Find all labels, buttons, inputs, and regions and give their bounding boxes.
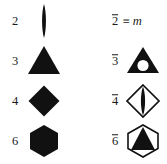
- axis-label-6: 6: [12, 134, 18, 147]
- symbol-cell-rotoinversion-4: 4: [100, 80, 167, 121]
- axis-label-4: 4: [12, 94, 18, 107]
- lens-two-fold-axis-symbol: [26, 3, 62, 39]
- open-circle-inversion-center: [137, 59, 148, 70]
- symbol-cell-rotoinversion-6: 6: [100, 120, 167, 161]
- symbol-cell-rotation-4: 4: [0, 80, 84, 121]
- axis-label-4-bar: 4: [112, 94, 118, 108]
- symbol-row: 2 2≡m: [0, 0, 167, 41]
- overbar-numeral: 2: [112, 14, 118, 28]
- symmetry-symbol-figure: 2 2≡m 3 3: [0, 0, 167, 164]
- filled-triangle-with-open-circle-three-bar-symbol: [124, 42, 162, 80]
- filled-hexagon-six-fold-axis-symbol: [26, 123, 62, 159]
- overbar-numeral: 3: [112, 54, 118, 68]
- symbol-cell-rotation-6: 6: [0, 120, 84, 161]
- symbol-row: 4 4: [0, 80, 167, 121]
- axis-label-6-bar: 6: [112, 134, 118, 148]
- equivalence-sign: ≡: [122, 14, 129, 28]
- symbol-cell-rotation-3: 3: [0, 40, 84, 81]
- filled-diamond-four-fold-axis-symbol: [26, 83, 62, 119]
- symbol-row: 3 3: [0, 40, 167, 81]
- open-diamond-with-filled-lens-four-bar-symbol: [124, 82, 162, 120]
- overbar-numeral: 6: [112, 134, 118, 148]
- mirror-symbol-m: m: [133, 14, 142, 28]
- symbol-cell-rotoinversion-3: 3: [100, 40, 167, 81]
- axis-label-3: 3: [12, 54, 18, 67]
- axis-label-3-bar: 3: [112, 54, 118, 68]
- axis-label-2-bar: 2≡m: [112, 14, 142, 28]
- axis-label-2: 2: [12, 14, 18, 27]
- overbar-numeral: 4: [112, 94, 118, 108]
- symbol-cell-rotation-2: 2: [0, 0, 84, 41]
- symbol-cell-rotoinversion-2: 2≡m: [100, 0, 167, 41]
- open-hexagon-with-filled-triangle-six-bar-symbol: [124, 122, 162, 160]
- symbol-row: 6 6: [0, 120, 167, 161]
- filled-triangle-three-fold-axis-symbol: [26, 43, 62, 79]
